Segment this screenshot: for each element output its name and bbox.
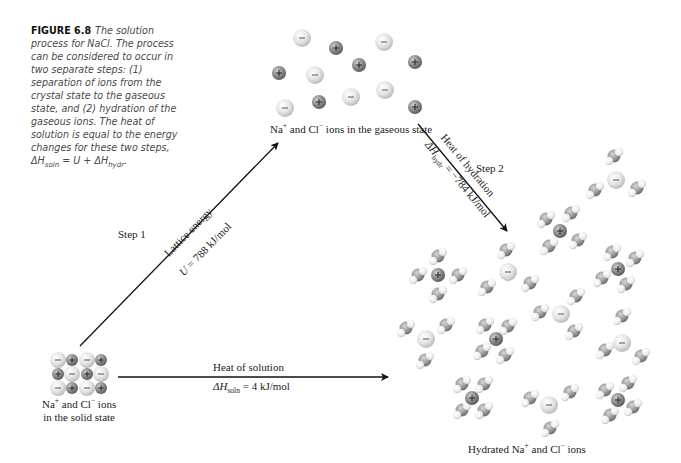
figure-diagram: FIGURE 6.8The solution process for NaCl.… [0,0,681,463]
step1-label: Step 1 [118,228,146,240]
diagram-graphics [0,0,681,463]
solid-lattice [50,352,109,396]
gaseous-state-label: Na+ and Cl− ions in the gaseous state [270,123,432,135]
heat-of-solution-value: ΔHsoln = 4 kJ/mol [213,380,290,392]
hydrated-state-label: Hydrated Na+ and Cl− ions [468,443,586,455]
solid-state-label: Na+ and Cl− ions in the solid state [42,398,116,424]
hydrated-ions [397,148,650,437]
gaseous-ions [272,29,422,117]
heat-of-solution-label: Heat of solution [213,361,284,373]
